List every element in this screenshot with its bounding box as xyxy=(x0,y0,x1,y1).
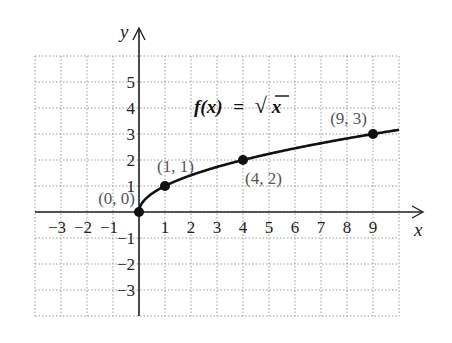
y-tick-label: −1 xyxy=(117,229,135,248)
equals-sign: = xyxy=(233,96,244,117)
data-points: (0, 0)(1, 1)(4, 2)(9, 3) xyxy=(98,109,378,217)
data-point-label: (9, 3) xyxy=(330,109,367,128)
x-axis-label: x xyxy=(413,219,423,240)
y-tick-label: −3 xyxy=(117,281,135,300)
data-point-marker xyxy=(160,181,170,191)
y-tick-label: 5 xyxy=(127,73,136,92)
data-point-label: (0, 0) xyxy=(98,189,135,208)
x-tick-label: −3 xyxy=(48,218,66,237)
x-tick-label: 2 xyxy=(187,218,196,237)
y-axis-label: y xyxy=(118,21,129,42)
x-tick-label: 6 xyxy=(291,218,300,237)
function-label: f(x) = √ x xyxy=(194,93,282,118)
data-point-marker xyxy=(134,207,144,217)
grid-lines xyxy=(35,56,399,316)
function-lhs: f(x) xyxy=(194,96,222,118)
sqrt-function-graph: −3−2−112345678954321−1−2−3 (0, 0)(1, 1)(… xyxy=(0,0,452,343)
x-tick-label: 7 xyxy=(317,218,326,237)
data-point-marker xyxy=(368,129,378,139)
y-tick-label: 3 xyxy=(127,125,136,144)
x-tick-label: 3 xyxy=(213,218,222,237)
x-tick-label: −2 xyxy=(74,218,92,237)
x-tick-label: 9 xyxy=(369,218,378,237)
function-arg: x xyxy=(271,96,282,117)
x-tick-label: −1 xyxy=(100,218,118,237)
y-tick-label: 2 xyxy=(127,151,136,170)
y-tick-label: 4 xyxy=(127,99,136,118)
x-tick-label: 8 xyxy=(343,218,352,237)
sqrt-symbol-icon: √ xyxy=(255,93,268,118)
x-tick-label: 5 xyxy=(265,218,274,237)
y-tick-label: −2 xyxy=(117,255,135,274)
data-point-label: (4, 2) xyxy=(245,169,282,188)
data-point-label: (1, 1) xyxy=(157,157,194,176)
axes xyxy=(35,28,423,316)
x-tick-label: 1 xyxy=(161,218,170,237)
data-point-marker xyxy=(238,155,248,165)
x-tick-label: 4 xyxy=(239,218,248,237)
